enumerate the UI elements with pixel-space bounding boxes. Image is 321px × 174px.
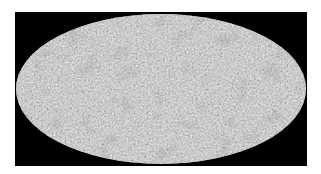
mollweide-sky-map	[16, 13, 306, 165]
map-frame	[15, 12, 307, 166]
